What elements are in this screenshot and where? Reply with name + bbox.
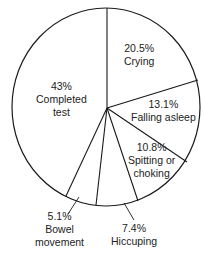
label-completed-pct: 43%: [36, 80, 87, 93]
label-bowel-name1: Bowel: [35, 223, 84, 236]
label-spitting-name1: Spitting or: [128, 154, 175, 167]
label-spitting-name2: choking: [128, 167, 175, 180]
label-hiccuping-pct: 7.4%: [111, 222, 157, 235]
label-spitting-pct: 10.8%: [128, 141, 175, 154]
label-hiccuping: 7.4% Hiccuping: [111, 222, 157, 248]
label-falling-asleep-pct: 13.1%: [131, 98, 196, 111]
leader-line-hiccuping: [124, 203, 134, 220]
label-falling-asleep-name: Falling asleep: [131, 111, 196, 124]
pie-chart: [0, 0, 204, 257]
label-completed-name2: test: [36, 106, 87, 119]
label-bowel: 5.1% Bowel movement: [35, 210, 84, 249]
label-hiccuping-name: Hiccuping: [111, 235, 157, 248]
label-crying-pct: 20.5%: [124, 42, 154, 55]
label-falling-asleep: 13.1% Falling asleep: [131, 98, 196, 124]
label-bowel-name2: movement: [35, 236, 84, 249]
label-bowel-pct: 5.1%: [35, 210, 84, 223]
label-spitting: 10.8% Spitting or choking: [128, 141, 175, 180]
label-completed-name1: Completed: [36, 93, 87, 106]
label-crying-name: Crying: [124, 55, 154, 68]
label-completed: 43% Completed test: [36, 80, 87, 119]
label-crying: 20.5% Crying: [124, 42, 154, 68]
